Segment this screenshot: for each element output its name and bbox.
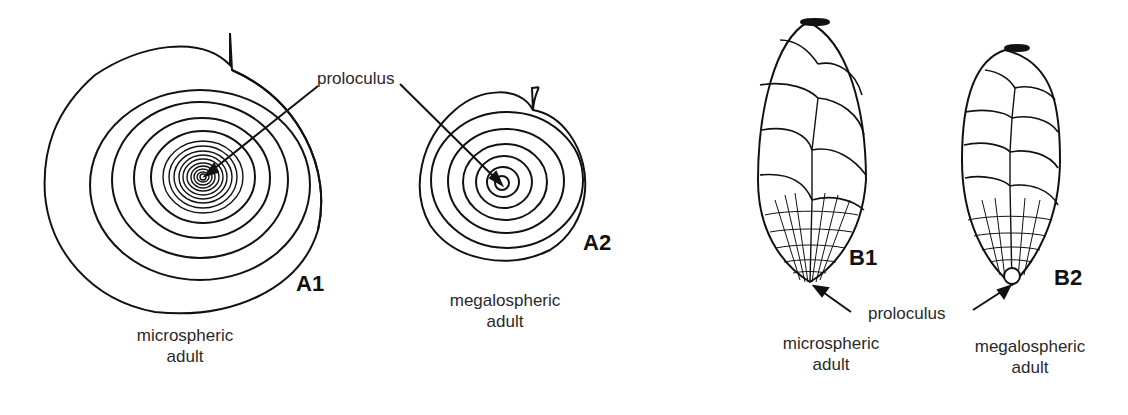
caption-a1-line1: microspheric bbox=[110, 325, 260, 346]
caption-a1: microspheric adult bbox=[110, 325, 260, 367]
caption-b2: megalospheric adult bbox=[955, 336, 1105, 378]
caption-a2-line1: megalospheric bbox=[430, 290, 580, 311]
panel-label-b2: B2 bbox=[1054, 265, 1082, 291]
caption-a2-line2: adult bbox=[430, 311, 580, 332]
spiral-a2 bbox=[420, 87, 585, 260]
panel-label-a2: A2 bbox=[583, 230, 611, 256]
caption-b2-line1: megalospheric bbox=[955, 336, 1105, 357]
caption-a2: megalospheric adult bbox=[430, 290, 580, 332]
caption-b2-line2: adult bbox=[955, 357, 1105, 378]
caption-b1-line2: adult bbox=[756, 354, 906, 375]
panel-label-b1: B1 bbox=[849, 245, 877, 271]
test-b1 bbox=[758, 19, 866, 282]
panel-label-a1: A1 bbox=[296, 271, 324, 297]
caption-b1: microspheric adult bbox=[756, 333, 906, 375]
proloculus-label-bottom: proloculus bbox=[868, 303, 946, 324]
test-b2 bbox=[962, 45, 1060, 285]
spiral-a1 bbox=[45, 33, 322, 313]
caption-b1-line1: microspheric bbox=[756, 333, 906, 354]
proloculus-label-top: proloculus bbox=[317, 68, 395, 89]
caption-a1-line2: adult bbox=[110, 346, 260, 367]
